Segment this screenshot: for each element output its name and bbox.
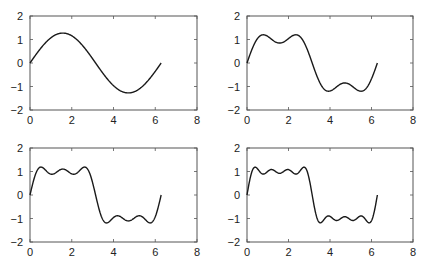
- x-tick-label: 2: [69, 246, 75, 258]
- x-tick-label: 4: [327, 246, 333, 258]
- y-tick-label: 1: [234, 34, 240, 46]
- x-tick-label: 0: [244, 114, 250, 126]
- x-tick-label: 2: [285, 246, 291, 258]
- y-tick-label: 2: [234, 142, 240, 154]
- x-tick-label: 4: [327, 114, 333, 126]
- y-tick-label: −1: [227, 81, 240, 93]
- x-tick-label: 0: [27, 246, 33, 258]
- y-tick-label: 1: [17, 34, 23, 46]
- y-tick-label: 2: [234, 10, 240, 22]
- subplot-top-right: 02468−2−1012: [227, 10, 416, 126]
- x-tick-label: 4: [110, 246, 116, 258]
- x-tick-label: 2: [285, 114, 291, 126]
- y-tick-label: 1: [17, 166, 23, 178]
- axes-box: [30, 16, 197, 110]
- y-tick-label: −1: [10, 81, 23, 93]
- x-tick-label: 6: [368, 246, 374, 258]
- series-line: [247, 35, 377, 91]
- series-line: [247, 167, 377, 223]
- series-line: [30, 167, 161, 223]
- x-tick-label: 8: [410, 114, 416, 126]
- y-tick-label: −1: [227, 213, 240, 225]
- y-tick-label: −2: [227, 104, 240, 116]
- subplot-bottom-left: 02468−2−1012: [10, 142, 200, 258]
- y-tick-label: −1: [10, 213, 23, 225]
- y-tick-label: 1: [234, 166, 240, 178]
- x-tick-label: 4: [110, 114, 116, 126]
- axes-box: [247, 148, 413, 242]
- y-tick-label: 2: [17, 10, 23, 22]
- y-tick-label: −2: [10, 104, 23, 116]
- y-tick-label: −2: [10, 236, 23, 248]
- x-tick-label: 8: [194, 246, 200, 258]
- y-tick-label: 0: [17, 189, 23, 201]
- x-tick-label: 0: [244, 246, 250, 258]
- x-tick-label: 0: [27, 114, 33, 126]
- figure-canvas: 02468−2−1012 02468−2−1012 02468−2−1012 0…: [0, 0, 424, 269]
- axes-box: [30, 148, 197, 242]
- x-tick-label: 8: [194, 114, 200, 126]
- x-tick-label: 6: [152, 246, 158, 258]
- x-tick-label: 6: [152, 114, 158, 126]
- x-tick-label: 6: [368, 114, 374, 126]
- axes-box: [247, 16, 413, 110]
- y-tick-label: 2: [17, 142, 23, 154]
- series-line: [30, 33, 161, 93]
- x-tick-label: 8: [410, 246, 416, 258]
- y-tick-label: 0: [17, 57, 23, 69]
- x-tick-label: 2: [69, 114, 75, 126]
- subplot-top-left: 02468−2−1012: [10, 10, 200, 126]
- y-tick-label: −2: [227, 236, 240, 248]
- y-tick-label: 0: [234, 57, 240, 69]
- y-tick-label: 0: [234, 189, 240, 201]
- subplot-bottom-right: 02468−2−1012: [227, 142, 416, 258]
